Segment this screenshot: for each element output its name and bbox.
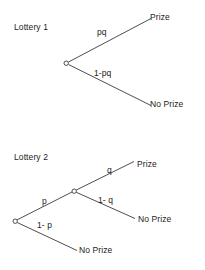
lottery-2-outcome-noprize-lower: No Prize	[79, 246, 112, 255]
lottery-2-outcome-noprize-upper: No Prize	[138, 215, 171, 224]
lottery-2-branches	[13, 162, 135, 251]
lottery-1-title: Lottery 1	[14, 23, 48, 32]
tree-lines-svg	[0, 0, 205, 270]
lottery-2-prob-1minusp: 1- p	[37, 221, 52, 230]
lottery-1-branches	[64, 19, 151, 106]
lottery-2-outcome-prize: Prize	[137, 160, 157, 169]
lottery-2-prob-p: p	[42, 197, 47, 206]
lottery-1-outcome-noprize: No Prize	[150, 100, 183, 109]
lottery-2-title: Lottery 2	[14, 153, 48, 162]
lottery2-branch-q-line	[76, 162, 134, 191]
lottery2-root-node	[13, 219, 17, 223]
lottery-1-prob-prize: pq	[97, 28, 107, 37]
lottery-1-prob-noprize: 1-pq	[94, 69, 111, 78]
lottery2-mid-node	[72, 189, 76, 193]
lottery-1-outcome-prize: Prize	[150, 13, 170, 22]
lottery-tree-figure: Lottery 1 pq Prize 1-pq No Prize Lottery…	[0, 0, 205, 270]
lottery-2-prob-1minusq: 1- q	[98, 196, 113, 205]
lottery1-branch-prize-line	[69, 19, 152, 63]
lottery1-root-node	[64, 61, 68, 65]
lottery-2-prob-q: q	[107, 166, 112, 175]
